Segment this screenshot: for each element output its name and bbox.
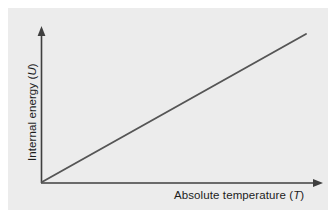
up-arrow-icon — [38, 26, 46, 36]
x-axis-label-prefix: Absolute temperature ( — [174, 189, 293, 201]
x-axis-label-suffix: ) — [300, 189, 304, 201]
y-axis — [38, 26, 46, 183]
y-axis-label-symbol: U — [26, 67, 38, 75]
right-arrow-icon — [313, 179, 323, 187]
y-axis-label: Internal energy (U) — [27, 63, 39, 161]
chart-canvas — [0, 0, 336, 219]
y-axis-label-suffix: ) — [26, 63, 38, 67]
data-line-internal-energy — [42, 34, 306, 182]
y-axis-label-prefix: Internal energy ( — [26, 76, 38, 161]
x-axis-label: Absolute temperature (T) — [174, 190, 304, 202]
figure-root: Absolute temperature (T) Internal energy… — [0, 0, 336, 219]
x-axis — [41, 179, 323, 187]
